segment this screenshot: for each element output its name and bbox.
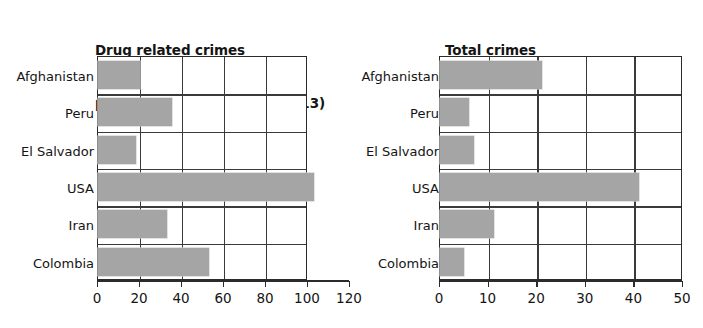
category-label-usa: USA [67, 182, 94, 195]
x-tick-80 [265, 281, 266, 287]
x-tick-20 [139, 281, 140, 287]
bar-row-usa [98, 169, 306, 206]
category-label-peru-right: Peru [410, 107, 439, 120]
bar-peru-right [440, 98, 469, 126]
x-tick-r-20 [536, 281, 537, 287]
bar-row-iran [98, 206, 306, 243]
x-tick-label-60: 60 [214, 292, 231, 306]
x-tick-label-100: 100 [294, 292, 320, 306]
x-tick-60 [223, 281, 224, 287]
bar-row-peru-right [440, 94, 681, 131]
chart-panel-total-crimes: Total crimes per 100,000 people Afghanis… [352, 0, 703, 328]
bar-el-salvador [98, 136, 136, 164]
x-tick-label-40: 40 [172, 292, 189, 306]
category-label-colombia-right: Colombia [378, 257, 439, 270]
bar-colombia-right [440, 248, 464, 276]
bar-afghanistan [98, 61, 140, 89]
chart-panel-drug-related-crimes: Drug related crimes per 100,000 populati… [0, 0, 352, 328]
x-tick-r-30 [585, 281, 586, 287]
x-tick-120 [349, 281, 350, 287]
bar-afghanistan-right [440, 61, 542, 89]
x-tick-r-0 [439, 281, 440, 287]
bar-row-peru [98, 94, 306, 131]
x-tick-40 [181, 281, 182, 287]
x-tick-r-10 [488, 281, 489, 287]
category-label-el-salvador-right: El Salvador [366, 145, 439, 158]
category-label-iran: Iran [69, 219, 94, 232]
bar-el-salvador-right [440, 136, 474, 164]
x-tick-label-r-20: 20 [528, 292, 545, 306]
x-tick-label-r-10: 10 [479, 292, 496, 306]
x-tick-label-r-0: 0 [435, 292, 444, 306]
plot-area-right [439, 56, 682, 280]
category-label-colombia: Colombia [33, 257, 94, 270]
x-tick-100 [307, 281, 308, 287]
figure: Drug related crimes per 100,000 populati… [0, 0, 703, 328]
bar-row-el-salvador [98, 132, 306, 169]
x-tick-label-20: 20 [130, 292, 147, 306]
bar-row-colombia-right [440, 244, 681, 281]
x-tick-label-r-50: 50 [673, 292, 690, 306]
bar-row-colombia [98, 244, 306, 281]
category-label-afghanistan-right: Afghanistan [362, 70, 439, 83]
x-tick-label-80: 80 [256, 292, 273, 306]
x-tick-0 [97, 281, 98, 287]
x-tick-label-r-40: 40 [625, 292, 642, 306]
category-label-iran-right: Iran [414, 219, 439, 232]
x-tick-label-0: 0 [93, 292, 102, 306]
bar-peru [98, 98, 172, 126]
bar-usa [98, 173, 314, 201]
bar-row-el-salvador-right [440, 132, 681, 169]
plot-area-left [97, 56, 307, 280]
x-tick-r-40 [633, 281, 634, 287]
bar-iran-right [440, 210, 494, 238]
x-tick-label-r-30: 30 [576, 292, 593, 306]
bar-colombia [98, 248, 209, 276]
category-label-el-salvador: El Salvador [21, 145, 94, 158]
bar-usa-right [440, 173, 639, 201]
bar-row-afghanistan [98, 57, 306, 94]
bar-row-afghanistan-right [440, 57, 681, 94]
x-tick-r-50 [682, 281, 683, 287]
bar-iran [98, 210, 167, 238]
category-label-afghanistan: Afghanistan [17, 70, 94, 83]
bar-row-iran-right [440, 206, 681, 243]
category-label-usa-right: USA [412, 182, 439, 195]
category-label-peru: Peru [65, 107, 94, 120]
bar-row-usa-right [440, 169, 681, 206]
